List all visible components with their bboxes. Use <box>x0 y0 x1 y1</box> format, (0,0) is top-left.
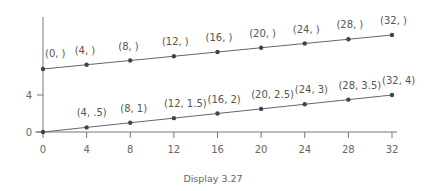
x-tick-label: 8 <box>127 144 133 155</box>
upper-point <box>41 67 45 71</box>
x-tick-label: 12 <box>168 144 181 155</box>
x-tick-label: 4 <box>83 144 89 155</box>
x-tick-label: 20 <box>255 144 268 155</box>
upper-point-label: (16, ) <box>206 32 233 43</box>
lower-point-label: (28, 3.5) <box>338 80 381 91</box>
upper-point-label: (8, ) <box>118 41 139 52</box>
lower-point <box>128 121 132 125</box>
line-chart: 04812162024283204(0, )(4, )(8, )(12, )(1… <box>0 0 428 191</box>
y-tick-label: 4 <box>26 90 32 101</box>
upper-point <box>346 37 350 41</box>
lower-point-label: (32, 4) <box>382 75 415 86</box>
upper-point-label: (32, ) <box>380 15 407 26</box>
lower-point <box>84 125 88 129</box>
caption-text: Display 3.27 <box>183 173 242 184</box>
lower-point-label: (4, .5) <box>77 107 107 118</box>
upper-point <box>128 58 132 62</box>
upper-point-label: (28, ) <box>336 19 363 30</box>
lower-point <box>303 102 307 106</box>
x-tick-label: 32 <box>386 144 399 155</box>
lower-point-label: (16, 2) <box>208 94 241 105</box>
lower-point <box>390 93 394 97</box>
lower-point <box>346 97 350 101</box>
x-tick-label: 24 <box>298 144 311 155</box>
lower-point <box>172 116 176 120</box>
lower-point <box>41 130 45 134</box>
lower-point-label: (8, 1) <box>120 103 147 114</box>
upper-point-label: (12, ) <box>162 36 189 47</box>
upper-point <box>215 50 219 54</box>
lower-point <box>259 107 263 111</box>
upper-point-label: (0, ) <box>45 48 66 59</box>
x-tick-label: 0 <box>40 144 46 155</box>
upper-point-label: (20, ) <box>249 28 276 39</box>
x-tick-label: 16 <box>211 144 224 155</box>
upper-point <box>84 63 88 67</box>
upper-point <box>303 41 307 45</box>
y-tick-label: 0 <box>26 127 32 138</box>
upper-point <box>390 33 394 37</box>
upper-point-label: (24, ) <box>293 24 320 35</box>
upper-point <box>259 46 263 50</box>
upper-point <box>172 54 176 58</box>
lower-point <box>215 111 219 115</box>
lower-point-label: (24, 3) <box>295 84 328 95</box>
x-tick-label: 28 <box>342 144 355 155</box>
lower-point-label: (20, 2.5) <box>251 89 294 100</box>
upper-point-label: (4, ) <box>75 45 96 56</box>
lower-point-label: (12, 1.5) <box>164 98 207 109</box>
